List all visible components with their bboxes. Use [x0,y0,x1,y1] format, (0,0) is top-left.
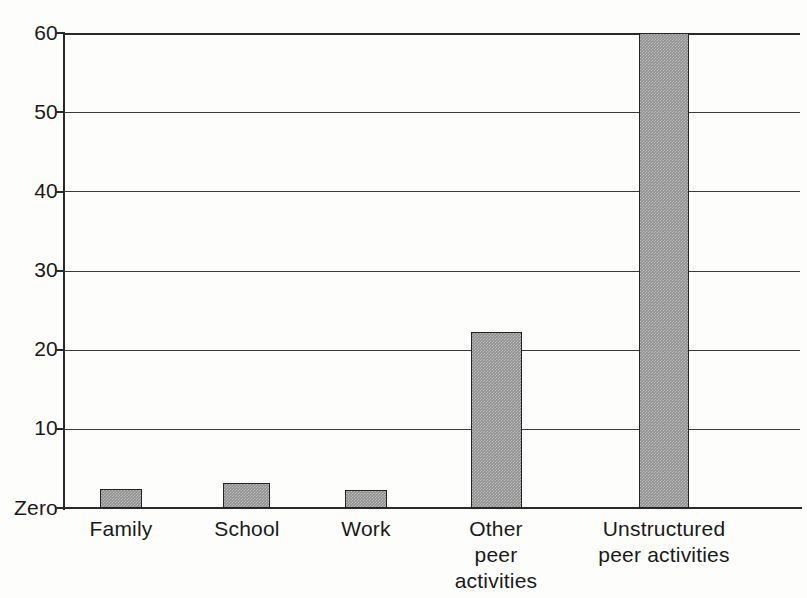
y-axis-tick-labels: 60 50 40 30 20 10 Zero [0,0,58,598]
y-tick-label-60: 60 [34,22,58,43]
plot-area [64,33,800,508]
y-tick-label-50: 50 [34,101,58,122]
bar-unstructured-peer-activities [639,33,689,508]
x-tick-label-work: Work [316,516,416,542]
x-tick-label-unstructured-peer-activities: Unstructured peer activities [574,516,754,568]
bar-work [345,490,387,508]
y-tick-label-30: 30 [34,259,58,280]
gridline-60 [64,33,800,35]
gridline-20 [64,350,800,351]
x-axis-tick-labels: Family School Work Other peer activities… [64,516,800,598]
y-tick-label-zero: Zero [14,497,58,518]
x-tick-label-other-peer-activities: Other peer activities [436,516,556,594]
bar-school [223,483,270,508]
gridline-50 [64,112,800,113]
gridline-10 [64,429,800,430]
bar-family [100,489,142,508]
gridline-40 [64,191,800,192]
bar-other-peer-activities [471,332,522,508]
x-tick-label-school: School [197,516,297,542]
x-tick-label-family: Family [71,516,171,542]
y-tick-label-40: 40 [34,180,58,201]
bar-chart: 60 50 40 30 20 10 Zero Family School Wor… [0,0,807,598]
gridline-30 [64,271,800,272]
y-tick-label-10: 10 [34,417,58,438]
y-tick-label-20: 20 [34,338,58,359]
